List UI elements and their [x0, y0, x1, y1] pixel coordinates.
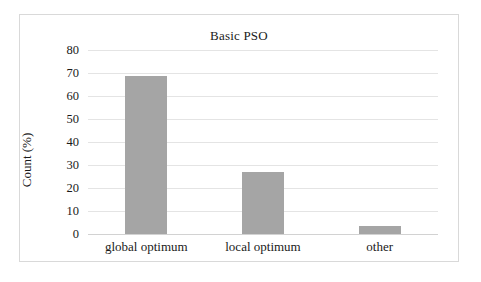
bar-slot	[205, 50, 322, 234]
bar-slot	[88, 50, 205, 234]
y-tick-label: 80	[67, 44, 80, 57]
y-tick-label: 50	[67, 113, 80, 126]
x-tick-label: global optimum	[88, 239, 205, 255]
chart-title: Basic PSO	[20, 28, 458, 43]
x-axis-tick-labels: global optimumlocal optimumother	[88, 239, 438, 261]
plot-area	[88, 50, 438, 234]
bar-slot	[321, 50, 438, 234]
bar[interactable]	[242, 172, 284, 234]
y-tick-label: 20	[67, 182, 80, 195]
y-tick-label: 0	[73, 228, 79, 241]
gridline	[88, 234, 438, 235]
y-tick-label: 10	[67, 205, 80, 218]
y-tick-label: 40	[67, 136, 80, 149]
y-tick-label: 70	[67, 67, 80, 80]
y-tick-label: 30	[67, 159, 80, 172]
x-tick-label: local optimum	[205, 239, 322, 255]
bar[interactable]	[125, 76, 167, 234]
y-axis-tick-labels: 80706050403020100	[20, 50, 84, 234]
bar-series	[88, 50, 438, 234]
bar[interactable]	[359, 226, 401, 234]
x-tick-label: other	[321, 239, 438, 255]
chart-figure: Basic PSO Count (%) 80706050403020100 gl…	[19, 14, 459, 262]
y-tick-label: 60	[67, 90, 80, 103]
